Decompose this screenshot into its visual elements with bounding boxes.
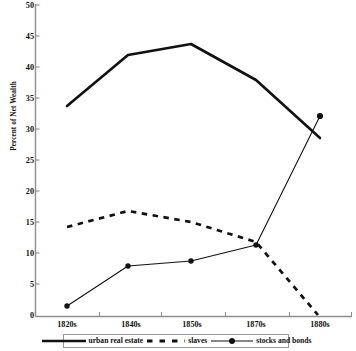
data-point-marker [188, 258, 193, 263]
legend-label: urban real estate [89, 337, 144, 345]
marker-line-swatch [210, 336, 254, 346]
data-point-marker [253, 242, 258, 247]
chart-legend: urban real estate slaves stocks and bond… [63, 334, 289, 348]
x-axis [36, 312, 353, 317]
series-markers-stocks-and-bonds [64, 113, 323, 309]
plot-area [0, 0, 356, 351]
series-line-stocks-and-bonds [67, 116, 320, 306]
data-point-marker [125, 263, 130, 268]
legend-item-stocks-and-bonds: stocks and bonds [210, 336, 311, 346]
series-line-urban-real-estate [67, 44, 320, 138]
chart-container: Percent of Net Wealth 50 45 40 35 30 25 … [0, 0, 356, 351]
legend-label: stocks and bonds [256, 337, 311, 345]
y-axis [36, 4, 40, 317]
data-point-marker [317, 113, 323, 119]
legend-item-slaves: slaves [146, 336, 207, 346]
legend-label: slaves [188, 337, 207, 345]
solid-line-swatch [41, 336, 87, 346]
data-point-marker [64, 303, 69, 308]
dashed-line-swatch [146, 336, 186, 346]
legend-item-urban-real-estate: urban real estate [41, 336, 144, 346]
